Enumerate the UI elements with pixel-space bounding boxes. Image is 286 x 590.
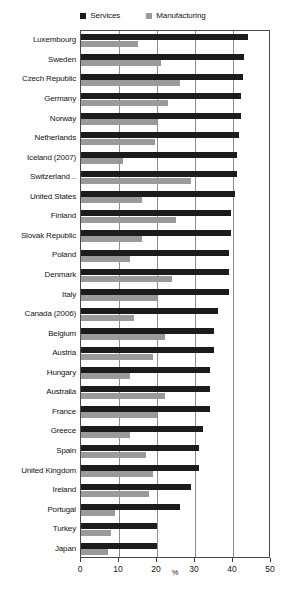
category-label: Australia bbox=[0, 387, 76, 396]
bar-row bbox=[81, 422, 269, 442]
bar-row bbox=[81, 324, 269, 344]
bar-manufacturing bbox=[81, 236, 142, 242]
bar-row bbox=[81, 481, 269, 501]
legend-swatch-services bbox=[80, 13, 86, 19]
bar-manufacturing bbox=[81, 217, 176, 223]
bar-manufacturing bbox=[81, 295, 157, 301]
bar-manufacturing bbox=[81, 393, 165, 399]
bar-row bbox=[81, 109, 269, 129]
legend-entry-services: Services bbox=[80, 11, 120, 20]
category-label: Canada (2006) bbox=[0, 309, 76, 318]
bar-services bbox=[81, 93, 241, 99]
bar-manufacturing bbox=[81, 334, 165, 340]
category-label: Ireland bbox=[0, 485, 76, 494]
bar-services bbox=[81, 543, 157, 549]
bar-services bbox=[81, 386, 210, 392]
bar-manufacturing bbox=[81, 197, 142, 203]
category-label: Luxembourg bbox=[0, 35, 76, 44]
bar-services bbox=[81, 132, 239, 138]
bar-manufacturing bbox=[81, 491, 149, 497]
bar-row bbox=[81, 168, 269, 188]
category-label: Portugal bbox=[0, 505, 76, 514]
bar-manufacturing bbox=[81, 139, 155, 145]
x-tick-label: 10 bbox=[113, 564, 122, 574]
x-tick-label: 0 bbox=[78, 564, 83, 574]
bar-manufacturing bbox=[81, 315, 134, 321]
bar-row bbox=[81, 90, 269, 110]
bar-services bbox=[81, 230, 231, 236]
bar-services bbox=[81, 367, 210, 373]
category-label: Austria bbox=[0, 348, 76, 357]
x-tick-label: 50 bbox=[265, 564, 274, 574]
legend-label-services: Services bbox=[90, 11, 120, 20]
category-label: Sweden bbox=[0, 55, 76, 64]
bar-row bbox=[81, 305, 269, 325]
category-label: Japan bbox=[0, 544, 76, 553]
bar-row bbox=[81, 285, 269, 305]
bar-row bbox=[81, 246, 269, 266]
bar-manufacturing bbox=[81, 412, 157, 418]
bar-row bbox=[81, 344, 269, 364]
bar-manufacturing bbox=[81, 354, 153, 360]
bar-services bbox=[81, 113, 241, 119]
category-label: Greece bbox=[0, 426, 76, 435]
x-tick-label: 20 bbox=[151, 564, 160, 574]
category-label: Italy bbox=[0, 290, 76, 299]
category-label: United Kingdom bbox=[0, 466, 76, 475]
bar-services bbox=[81, 465, 199, 471]
category-label: Germany bbox=[0, 94, 76, 103]
category-label: Slovak Republic bbox=[0, 231, 76, 240]
bar-manufacturing bbox=[81, 373, 130, 379]
bar-services bbox=[81, 406, 210, 412]
category-label: Spain bbox=[0, 446, 76, 455]
bar-manufacturing bbox=[81, 549, 108, 555]
x-tick-mark bbox=[156, 558, 157, 562]
category-label: Norway bbox=[0, 114, 76, 123]
category-label: Switzerland .. bbox=[0, 172, 76, 181]
x-tick-label: 30 bbox=[189, 564, 198, 574]
bar-row bbox=[81, 461, 269, 481]
bar-row bbox=[81, 148, 269, 168]
bar-row bbox=[81, 51, 269, 71]
bar-services bbox=[81, 152, 237, 158]
bar-services bbox=[81, 191, 235, 197]
bar-services bbox=[81, 210, 231, 216]
bar-row bbox=[81, 207, 269, 227]
bar-row bbox=[81, 227, 269, 247]
bar-manufacturing bbox=[81, 119, 157, 125]
bar-services bbox=[81, 34, 248, 40]
bar-row bbox=[81, 500, 269, 520]
bar-row bbox=[81, 520, 269, 540]
category-label: Czech Republic bbox=[0, 74, 76, 83]
chart-legend: Services Manufacturing bbox=[0, 11, 286, 20]
bar-manufacturing bbox=[81, 432, 130, 438]
bar-row bbox=[81, 70, 269, 90]
bar-manufacturing bbox=[81, 100, 168, 106]
x-tick-mark bbox=[232, 558, 233, 562]
bar-services bbox=[81, 426, 203, 432]
bar-manufacturing bbox=[81, 530, 111, 536]
category-label: Denmark bbox=[0, 270, 76, 279]
bar-services bbox=[81, 445, 199, 451]
x-tick-mark bbox=[80, 558, 81, 562]
legend-label-manufacturing: Manufacturing bbox=[156, 11, 205, 20]
x-tick-label: 40 bbox=[227, 564, 236, 574]
category-label: France bbox=[0, 407, 76, 416]
bar-services bbox=[81, 504, 180, 510]
category-label: Turkey bbox=[0, 524, 76, 533]
bar-services bbox=[81, 328, 214, 334]
bar-manufacturing bbox=[81, 276, 172, 282]
bar-manufacturing bbox=[81, 256, 130, 262]
bar-manufacturing bbox=[81, 510, 115, 516]
bar-row bbox=[81, 539, 269, 558]
category-axis-labels: LuxembourgSwedenCzech RepublicGermanyNor… bbox=[0, 30, 76, 558]
plot-area bbox=[80, 30, 270, 558]
category-label: United States bbox=[0, 192, 76, 201]
x-axis-unit-label: % bbox=[172, 568, 179, 577]
bar-row bbox=[81, 403, 269, 423]
bar-row bbox=[81, 363, 269, 383]
legend-entry-manufacturing: Manufacturing bbox=[146, 11, 205, 20]
bar-services bbox=[81, 484, 191, 490]
bar-services bbox=[81, 269, 229, 275]
bar-manufacturing bbox=[81, 80, 180, 86]
